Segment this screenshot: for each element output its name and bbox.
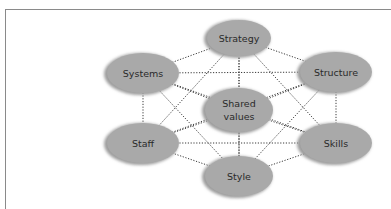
node-systems: Systems (104, 53, 179, 95)
nodes: Strategy Systems Structure Shared values… (104, 20, 372, 198)
node-skills: Skills (297, 123, 372, 165)
label-systems: Systems (123, 68, 163, 79)
label-shared-values-line1: Shared (222, 98, 255, 109)
node-structure: Structure (297, 52, 372, 94)
label-strategy: Strategy (219, 33, 260, 44)
node-staff: Staff (104, 123, 179, 165)
label-structure: Structure (314, 67, 358, 78)
node-strategy: Strategy (204, 20, 271, 58)
seven-s-diagram: Strategy Systems Structure Shared values… (0, 0, 391, 209)
label-skills: Skills (324, 138, 348, 149)
label-shared-values-line2: values (224, 111, 255, 122)
label-style: Style (227, 171, 251, 182)
node-shared-values: Shared values (202, 88, 273, 134)
node-style: Style (202, 156, 273, 198)
label-staff: Staff (132, 138, 155, 149)
